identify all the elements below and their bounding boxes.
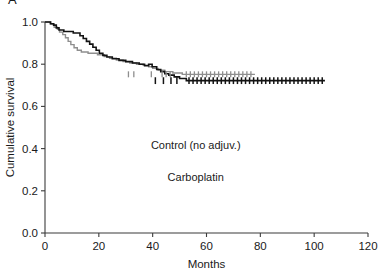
- x-axis-tick-label: 40: [146, 240, 159, 252]
- y-axis-tick-label: 0.2: [22, 185, 38, 197]
- axes: [41, 22, 368, 237]
- y-axis-tick-label: 0.8: [22, 58, 38, 70]
- survival-chart-figure: A 0.00.20.40.60.81.0020406080100120Month…: [0, 0, 392, 270]
- y-axis-title: Cumulative survival: [4, 78, 16, 178]
- legend-label: Carboplatin: [168, 171, 224, 183]
- x-axis-tick-label: 80: [254, 240, 267, 252]
- y-axis-tick-label: 0.6: [22, 100, 38, 112]
- y-axis-tick-label: 0.0: [22, 227, 38, 239]
- survival-curve-control: [45, 22, 255, 74]
- x-axis-tick-label: 60: [200, 240, 213, 252]
- kaplan-meier-plot: 0.00.20.40.60.81.0020406080100120MonthsC…: [0, 0, 392, 270]
- x-axis-tick-label: 0: [42, 240, 48, 252]
- legend-annotations: Control (no adjuv.)Carboplatin: [151, 139, 241, 184]
- x-axis-title: Months: [188, 258, 226, 270]
- y-axis-tick-label: 1.0: [22, 16, 38, 28]
- panel-label: A: [8, 0, 17, 6]
- censoring-marks: [128, 71, 322, 84]
- legend-label: Control (no adjuv.): [151, 139, 241, 151]
- x-axis-tick-label: 20: [92, 240, 105, 252]
- x-axis-tick-label: 100: [305, 240, 324, 252]
- x-axis-tick-label: 120: [358, 240, 377, 252]
- y-axis-tick-label: 0.4: [22, 143, 39, 155]
- survival-curves: [45, 22, 325, 81]
